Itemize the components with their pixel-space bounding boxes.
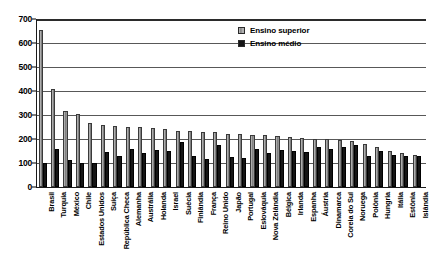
legend-swatch-icon xyxy=(238,27,245,34)
x-axis-label-slot: Estados Unidos xyxy=(87,190,99,268)
x-axis-label-slot: Chile xyxy=(75,190,87,268)
x-axis-label-slot: Alemanha xyxy=(125,190,137,268)
bar-group xyxy=(51,19,63,187)
plot-area xyxy=(36,19,426,188)
bar-group xyxy=(375,19,387,187)
bar-ensino-medio xyxy=(68,160,72,187)
bar-ensino-medio xyxy=(230,157,234,187)
x-axis-label-slot: Irlanda xyxy=(287,190,299,268)
x-axis-label-slot: Espanha xyxy=(299,190,311,268)
x-axis-label-slot: Brasil xyxy=(38,190,50,268)
x-axis-label-slot: México xyxy=(62,190,74,268)
x-axis-label-slot: Coreia do Sul xyxy=(337,190,349,268)
bar-group xyxy=(63,19,75,187)
x-axis-label-slot: Austrália xyxy=(137,190,149,268)
x-axis-label-slot: Áustria xyxy=(312,190,324,268)
bar-ensino-medio xyxy=(367,156,371,187)
bar-ensino-medio xyxy=(342,147,346,187)
bar-chart-figure: 7006005004003002001000 Ensino superiorEn… xyxy=(0,0,438,268)
x-axis-labels: BrasilTurquiaMéxicoChileEstados UnidosSu… xyxy=(36,190,425,268)
x-axis-label-slot: Islândia xyxy=(412,190,424,268)
bar-group xyxy=(400,19,412,187)
bar-group xyxy=(388,19,400,187)
bar-group xyxy=(176,19,188,187)
bar-ensino-medio xyxy=(317,147,321,187)
bar-group xyxy=(188,19,200,187)
bar-ensino-medio xyxy=(80,163,84,187)
bar-group xyxy=(201,19,213,187)
bar-ensino-medio xyxy=(392,155,396,187)
x-axis-label-slot: Polônia xyxy=(362,190,374,268)
bar-ensino-medio xyxy=(404,156,408,187)
legend-swatch-icon xyxy=(238,40,245,47)
bar-group xyxy=(325,19,337,187)
x-axis-label-slot: Israel xyxy=(162,190,174,268)
bar-ensino-medio xyxy=(117,156,121,187)
bar-ensino-medio xyxy=(142,153,146,187)
bar-ensino-medio xyxy=(217,145,221,187)
x-axis-label-slot: Portugal xyxy=(237,190,249,268)
chart-legend: Ensino superiorEnsino médio xyxy=(238,26,309,48)
x-axis-tick-label: Islândia xyxy=(421,192,430,218)
bar-ensino-medio xyxy=(43,163,47,187)
bar-group xyxy=(313,19,325,187)
bar-ensino-medio xyxy=(379,151,383,187)
bar-group xyxy=(413,19,425,187)
y-axis-tick-label: 400 xyxy=(18,86,32,96)
y-axis-tick-label: 300 xyxy=(18,110,32,120)
bar-ensino-medio xyxy=(354,145,358,187)
x-axis-label-slot: Finlândia xyxy=(187,190,199,268)
bar-ensino-medio xyxy=(155,150,159,187)
bar-group xyxy=(363,19,375,187)
x-axis-label-slot: Reino Unido xyxy=(212,190,224,268)
x-axis-label-slot: Turquia xyxy=(50,190,62,268)
legend-entry: Ensino médio xyxy=(238,39,309,48)
bar-ensino-medio xyxy=(105,152,109,187)
x-axis-label-slot: Noruega xyxy=(349,190,361,268)
x-axis-label-slot: Itália xyxy=(387,190,399,268)
x-axis-label-slot: Holanda xyxy=(150,190,162,268)
x-axis-label-slot: Hungria xyxy=(374,190,386,268)
x-axis-label-slot: Japão xyxy=(225,190,237,268)
bar-group xyxy=(338,19,350,187)
x-axis-label-slot: Nova Zelândia xyxy=(262,190,274,268)
bar-ensino-medio xyxy=(267,153,271,187)
y-axis-tick-label: 200 xyxy=(18,134,32,144)
legend-entry: Ensino superior xyxy=(238,26,309,35)
bar-ensino-medio xyxy=(304,152,308,187)
x-axis-label-slot: Bélgica xyxy=(274,190,286,268)
bar-ensino-medio xyxy=(242,158,246,187)
y-axis-tick-label: 100 xyxy=(18,158,32,168)
x-axis-label-slot: Eslováquia xyxy=(249,190,261,268)
bar-group xyxy=(226,19,238,187)
x-axis-label-slot: Suíça xyxy=(100,190,112,268)
y-axis-tick-label: 700 xyxy=(18,14,32,24)
bar-ensino-medio xyxy=(205,159,209,187)
x-axis-label-slot: Suécia xyxy=(175,190,187,268)
bar-group xyxy=(163,19,175,187)
bar-group xyxy=(151,19,163,187)
x-axis-label-slot: França xyxy=(200,190,212,268)
y-axis: 7006005004003002001000 xyxy=(0,12,36,190)
y-axis-tick-label: 500 xyxy=(18,62,32,72)
bar-ensino-medio xyxy=(417,156,421,187)
bar-group xyxy=(138,19,150,187)
bar-ensino-medio xyxy=(180,142,184,187)
bar-group xyxy=(350,19,362,187)
bar-ensino-medio xyxy=(280,150,284,187)
bar-group xyxy=(213,19,225,187)
bar-group xyxy=(88,19,100,187)
bar-ensino-medio xyxy=(167,151,171,187)
bar-group xyxy=(101,19,113,187)
bar-group xyxy=(126,19,138,187)
legend-label: Ensino superior xyxy=(250,26,309,35)
bar-group xyxy=(39,19,51,187)
legend-label: Ensino médio xyxy=(250,39,301,48)
bar-ensino-medio xyxy=(130,149,134,187)
bar-ensino-medio xyxy=(92,163,96,187)
x-axis-label-slot: República Checa xyxy=(112,190,124,268)
bar-ensino-medio xyxy=(329,149,333,187)
y-axis-tick-label: 600 xyxy=(18,38,32,48)
bar-ensino-medio xyxy=(292,151,296,187)
bars-layer xyxy=(37,19,426,187)
